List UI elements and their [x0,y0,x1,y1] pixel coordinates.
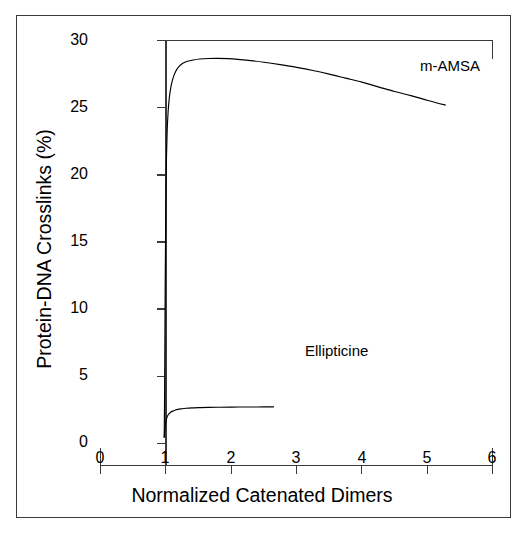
xtick-label-3: 3 [281,450,311,466]
y-axis-title: Protein-DNA Crosslinks (%) [33,129,56,368]
series-group [164,58,445,437]
ytick-label-25: 25 [54,99,88,115]
plot-canvas [0,0,524,533]
xtick-label-5: 5 [412,450,442,466]
ytick-label-10: 10 [54,300,88,316]
ytick-label-30: 30 [54,32,88,48]
series-label-m-amsa: m-AMSA [420,57,480,74]
series-label-ellipticine: Ellipticine [305,342,368,359]
ytick-label-0: 0 [54,434,88,450]
series-line-m-amsa [164,58,445,436]
ytick-label-20: 20 [54,166,88,182]
y-axis-title-wrapper: Protein-DNA Crosslinks (%) [33,49,59,449]
xtick-label-4: 4 [347,450,377,466]
series-line-ellipticine [164,407,273,438]
figure-container: 30 25 20 15 10 5 0 0 1 2 3 4 5 6 m-AMSA … [0,0,524,533]
xtick-label-2: 2 [216,450,246,466]
xtick-label-6: 6 [477,450,507,466]
xtick-label-0: 0 [85,450,115,466]
xtick-label-1: 1 [150,450,180,466]
ytick-label-5: 5 [54,367,88,383]
axes-group [101,41,493,474]
ytick-label-15: 15 [54,233,88,249]
x-axis-title: Normalized Catenated Dimers [0,484,524,507]
